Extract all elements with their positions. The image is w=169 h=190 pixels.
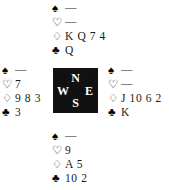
compass-south-label: S	[72, 97, 79, 109]
heart-pip: ♡	[52, 17, 63, 28]
hand-west-hearts-ranks: 7	[13, 78, 21, 90]
hand-east: ♠ — ♡ — ♢ J 10 6 2 ♣ K	[108, 63, 162, 119]
hand-south-hearts-line: ♡ 9	[52, 143, 88, 157]
hand-west-spades-ranks: —	[13, 63, 27, 75]
hand-east-spades-line: ♠ —	[108, 63, 162, 77]
hand-west-spades-line: ♠ —	[2, 63, 41, 77]
hand-north-hearts-ranks: —	[63, 15, 77, 27]
spade-pip: ♠	[52, 131, 63, 142]
diamond-pip: ♢	[52, 31, 63, 42]
hand-north-diamonds-ranks: K Q 7 4	[63, 30, 106, 42]
hand-east-diamonds-ranks: J 10 6 2	[119, 92, 162, 104]
hand-west-clubs-ranks: 3	[13, 106, 21, 118]
compass-east-label: E	[85, 85, 93, 97]
diamond-pip: ♢	[108, 93, 119, 104]
hand-east-hearts-line: ♡ —	[108, 77, 162, 91]
spade-pip: ♠	[2, 65, 13, 76]
compass-west-label: W	[57, 85, 69, 97]
spade-pip: ♠	[108, 65, 119, 76]
hand-west-clubs-line: ♣ 3	[2, 105, 41, 119]
hand-north-spades-ranks: —	[63, 1, 77, 13]
hand-north-spades-line: ♠ —	[52, 1, 106, 15]
hand-west: ♠ — ♡ 7 ♢ 9 8 3 ♣ 3	[2, 63, 41, 119]
heart-pip: ♡	[108, 79, 119, 90]
hand-north-diamonds-line: ♢ K Q 7 4	[52, 29, 106, 43]
hand-south-spades-line: ♠ —	[52, 129, 88, 143]
heart-pip: ♡	[2, 79, 13, 90]
club-pip: ♣	[52, 173, 63, 184]
hand-south-hearts-ranks: 9	[63, 144, 71, 156]
hand-north-hearts-line: ♡ —	[52, 15, 106, 29]
bridge-deal-diagram: ♠ — ♡ — ♢ K Q 7 4 ♣ Q ♠ — ♡ 7 ♢ 9 8 3	[0, 0, 169, 190]
compass-box: N W E S	[53, 68, 98, 113]
hand-south-diamonds-line: ♢ A 5	[52, 157, 88, 171]
hand-east-spades-ranks: —	[119, 63, 133, 75]
club-pip: ♣	[52, 45, 63, 56]
hand-south-diamonds-ranks: A 5	[63, 158, 83, 170]
hand-north: ♠ — ♡ — ♢ K Q 7 4 ♣ Q	[52, 1, 106, 57]
club-pip: ♣	[108, 107, 119, 118]
hand-north-clubs-ranks: Q	[63, 44, 74, 56]
spade-pip: ♠	[52, 3, 63, 14]
hand-east-diamonds-line: ♢ J 10 6 2	[108, 91, 162, 105]
hand-north-clubs-line: ♣ Q	[52, 43, 106, 57]
hand-south-clubs-line: ♣ 10 2	[52, 171, 88, 185]
club-pip: ♣	[2, 107, 13, 118]
hand-west-diamonds-line: ♢ 9 8 3	[2, 91, 41, 105]
hand-east-clubs-ranks: K	[119, 106, 130, 118]
hand-east-clubs-line: ♣ K	[108, 105, 162, 119]
compass-north-label: N	[71, 72, 80, 84]
hand-west-hearts-line: ♡ 7	[2, 77, 41, 91]
diamond-pip: ♢	[2, 93, 13, 104]
hand-south-spades-ranks: —	[63, 129, 77, 141]
hand-south: ♠ — ♡ 9 ♢ A 5 ♣ 10 2	[52, 129, 88, 185]
hand-west-diamonds-ranks: 9 8 3	[13, 92, 41, 104]
hand-east-hearts-ranks: —	[119, 77, 133, 89]
heart-pip: ♡	[52, 145, 63, 156]
diamond-pip: ♢	[52, 159, 63, 170]
hand-south-clubs-ranks: 10 2	[63, 172, 88, 184]
